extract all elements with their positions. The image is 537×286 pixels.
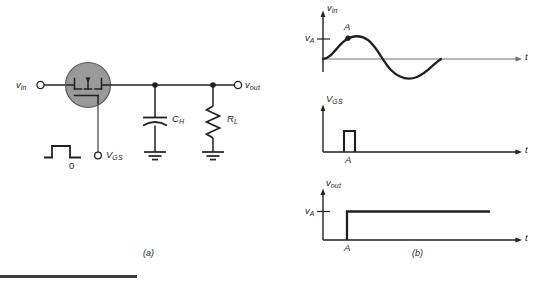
v-out-y-tick-label: vA [305, 206, 315, 217]
ground-symbol-capacitor [144, 152, 166, 160]
v-out-plot [317, 189, 522, 243]
v-out-t-label: t [525, 233, 528, 243]
output-terminal-label: vout [245, 80, 260, 91]
vgs-plot [321, 105, 522, 155]
vgs-axis-label: VGS [326, 94, 343, 105]
v-out-point-a-label: A [344, 243, 350, 253]
v-in-point-a-marker [345, 36, 350, 41]
vgs-x-axis-arrowhead [516, 150, 523, 155]
v-in-t-label: t [525, 52, 528, 62]
v-in-sine-waveform [323, 36, 441, 78]
v-out-y-axis-arrowhead [321, 189, 326, 196]
input-terminal-node [37, 81, 44, 88]
v-in-y-axis-arrowhead [321, 11, 326, 18]
v-out-axis-label: vout [326, 178, 341, 189]
v-in-axis-label: vin [327, 3, 338, 14]
subfigure-b-caption: (b) [412, 248, 423, 258]
resistor-branch [202, 85, 224, 160]
vgs-pulse-waveform [344, 131, 355, 152]
vgs-t-label: t [525, 145, 528, 155]
v-out-x-axis-arrowhead [516, 238, 523, 243]
input-terminal-label: vin [16, 80, 27, 91]
gate-pulse-waveform [44, 146, 81, 158]
gate-terminal-node [95, 152, 102, 159]
resistor-label: RL [227, 114, 238, 125]
v-in-point-a-label: A [344, 22, 350, 32]
vgs-y-axis-arrowhead [321, 105, 326, 112]
vgs-point-a-label: A [345, 155, 351, 165]
capacitor-curved-plate [143, 122, 167, 126]
ground-symbol-resistor [202, 152, 224, 160]
v-in-y-tick-label: vA [305, 33, 315, 44]
output-terminal-node [234, 81, 241, 88]
circuit-diagram [37, 63, 242, 160]
v-out-step-waveform [347, 212, 490, 241]
capacitor-label: CH [172, 114, 184, 125]
figure-canvas [0, 0, 537, 286]
v-in-x-axis-arrowhead [516, 57, 523, 62]
capacitor-branch [143, 85, 167, 160]
subfigure-a-caption: (a) [143, 248, 154, 258]
gate-pulse-baseline-label: 0 [69, 161, 74, 171]
gate-terminal-label: VGS [106, 150, 123, 161]
resistor-zigzag [207, 106, 220, 138]
